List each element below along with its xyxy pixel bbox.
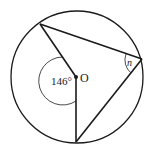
central-angle-label: 146° <box>51 75 72 87</box>
chord-a-b <box>40 24 142 59</box>
geometry-diagram: O 146° n <box>0 0 156 153</box>
radius-o-a <box>40 24 76 77</box>
center-point <box>74 75 78 79</box>
center-label: O <box>80 71 89 85</box>
inscribed-angle-label: n <box>127 57 132 68</box>
